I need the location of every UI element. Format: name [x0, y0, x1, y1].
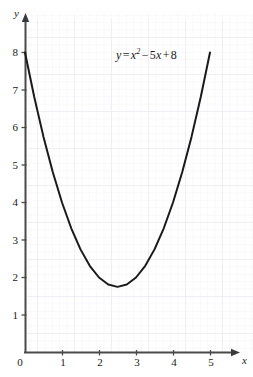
x-tick-label-3: 3	[130, 357, 144, 368]
y-tick-label-2: 2	[4, 272, 18, 283]
equation-lhs: y	[116, 48, 122, 62]
y-tick-label-1: 1	[4, 310, 18, 321]
equation-annotation: y=x2−5x+8	[116, 48, 177, 63]
y-axis-label: y	[14, 8, 19, 19]
x-tick-label-1: 1	[56, 357, 70, 368]
x-axis-label: x	[242, 355, 247, 366]
equation-equals: =	[122, 48, 131, 62]
y-tick-label-6: 6	[4, 122, 18, 133]
equation-minus: −	[141, 48, 150, 62]
y-tick-label-4: 4	[4, 197, 18, 208]
graph-figure: 8 7 6 5 4 3 2 1 0 1 2 3 4 5 y x y=x2−5x+…	[0, 0, 253, 377]
y-tick-label-7: 7	[4, 85, 18, 96]
y-tick-label-3: 3	[4, 235, 18, 246]
y-tick-label-8: 8	[4, 47, 18, 58]
equation-var2: x	[156, 48, 162, 62]
x-tick-label-5: 5	[204, 357, 218, 368]
x-tick-label-2: 2	[93, 357, 107, 368]
equation-constant: 8	[171, 48, 177, 62]
y-tick-label-5: 5	[4, 160, 18, 171]
x-tick-label-4: 4	[167, 357, 181, 368]
equation-plus: +	[162, 48, 171, 62]
grid-major	[25, 19, 253, 352]
x-tick-label-0: 0	[13, 357, 27, 368]
